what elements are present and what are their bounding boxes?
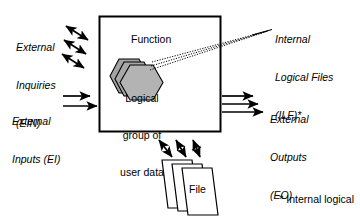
external-outputs-line2: Outputs xyxy=(270,151,309,164)
ilf-line2: Logical Files xyxy=(275,71,333,84)
logical-group-label-line2: group of xyxy=(111,129,173,141)
file-stack-label: File xyxy=(189,183,206,196)
external-inputs-arrows xyxy=(63,96,97,106)
logical-group-label: Logical group of user data xyxy=(111,68,173,202)
external-inputs-label: External Inputs (EI) xyxy=(12,90,60,191)
logical-group-label-line3: user data xyxy=(111,166,173,178)
external-inquiries-arrows xyxy=(62,26,88,68)
ilf-line3: (ILF)* xyxy=(275,109,333,122)
external-inputs-line1: External xyxy=(12,115,60,128)
footnote-line1: * Internal logical xyxy=(248,193,354,206)
ilf-line1: Internal xyxy=(275,33,333,46)
logical-group-label-line1: Logical xyxy=(111,92,173,104)
footnote: * Internal logical grouping of user data… xyxy=(248,168,354,218)
function-point-diagram: Function Logical group of user data Exte… xyxy=(0,0,360,218)
external-outputs-arrows xyxy=(222,96,263,112)
external-inquiries-line1: External xyxy=(16,41,56,54)
external-inputs-line2: Inputs (EI) xyxy=(12,153,60,166)
function-box-label: Function xyxy=(131,33,171,46)
internal-logical-files-label: Internal Logical Files (ILF)* xyxy=(275,8,333,147)
